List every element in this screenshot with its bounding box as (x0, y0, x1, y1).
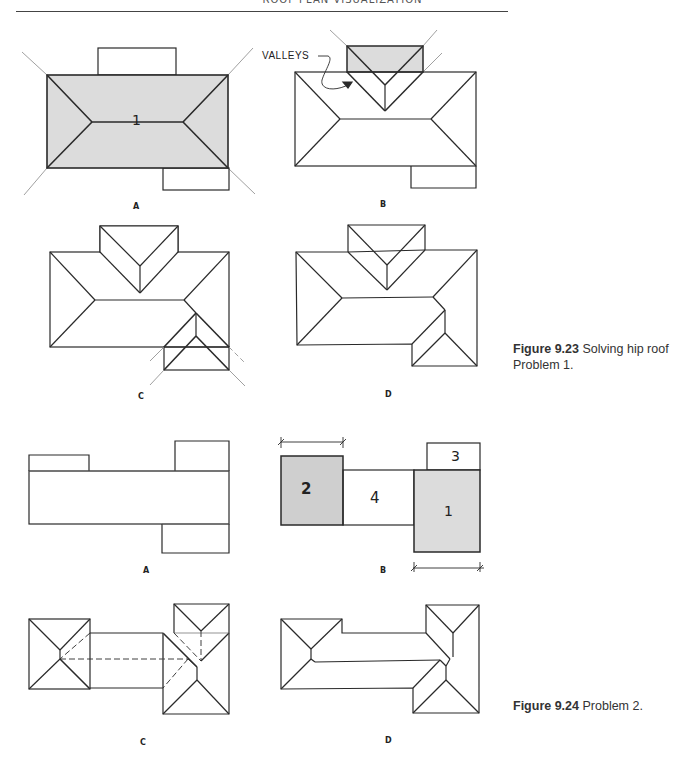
fig-9-24-d-drawing (281, 605, 479, 713)
caption-figure-9-23: Figure 9.23 Solving hip roof Problem 1. (513, 341, 683, 373)
fig-9-23-d-drawing (296, 225, 477, 366)
panel-label-9-24-d: D (385, 736, 392, 745)
caption-label-9-24: Figure 9.24 (513, 699, 579, 713)
fig-9-23-b-drawing (295, 30, 476, 188)
area-number-1-b: 1 (444, 503, 453, 519)
panel-label-9-24-c: C (140, 738, 146, 747)
valleys-annotation: VALLEYS (262, 50, 309, 61)
area-number-4: 4 (370, 489, 380, 507)
fig-9-23-c-drawing (50, 226, 246, 386)
caption-text-9-24: Problem 2. (582, 699, 642, 713)
panel-label-9-24-b: B (380, 566, 386, 575)
caption-label-9-23: Figure 9.23 (513, 342, 579, 356)
fig-9-24-a-drawing (29, 441, 229, 553)
panel-label-9-23-a: A (133, 202, 139, 211)
panel-label-9-24-a: A (143, 566, 149, 575)
area-number-1: 1 (132, 112, 141, 128)
area-number-2: 2 (301, 480, 311, 498)
panel-label-9-23-d: D (385, 390, 392, 399)
caption-figure-9-24: Figure 9.24 Problem 2. (513, 698, 683, 714)
drawings-canvas (0, 0, 685, 761)
fig-9-24-c-drawing (29, 604, 229, 714)
area-number-3: 3 (451, 448, 460, 464)
panel-label-9-23-c: C (138, 392, 144, 401)
panel-label-9-23-b: B (380, 200, 386, 209)
